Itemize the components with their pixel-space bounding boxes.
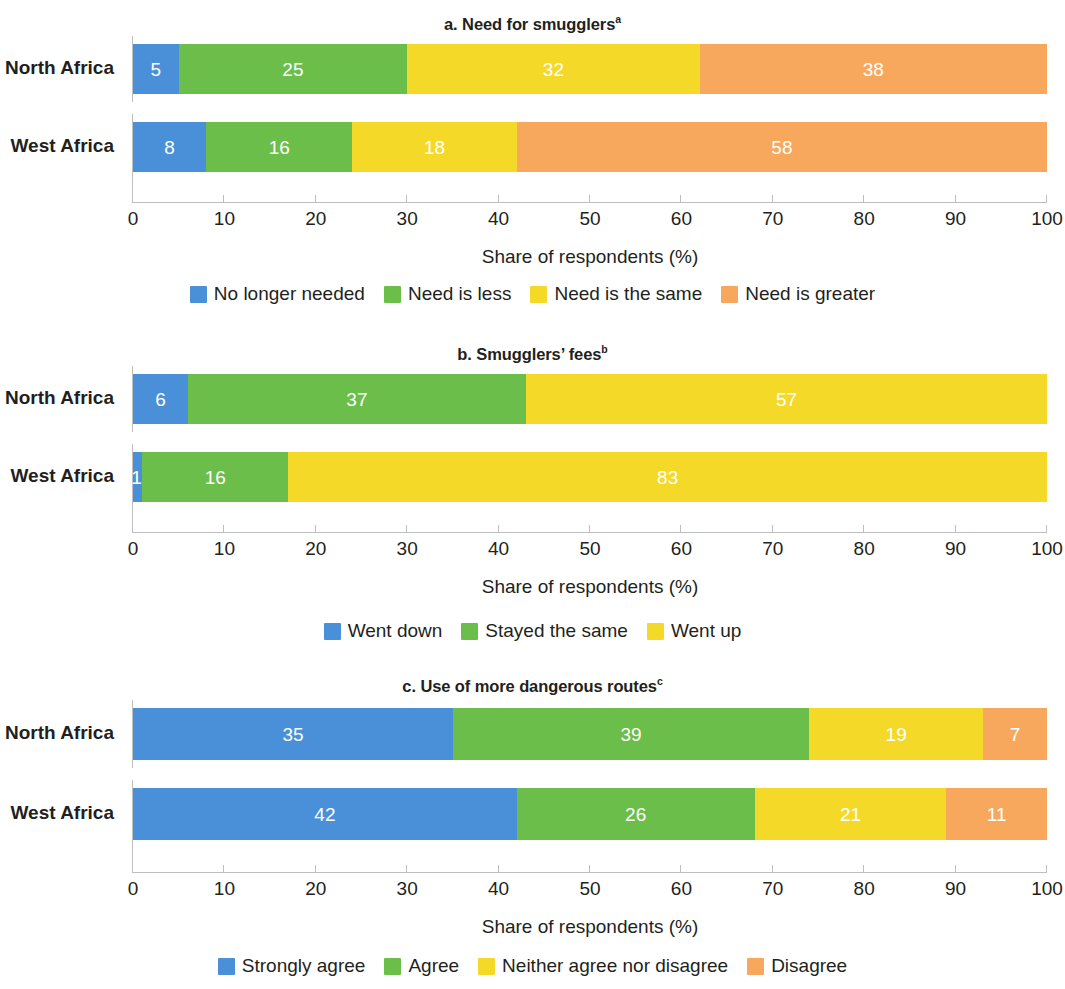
x-axis-baseline xyxy=(132,202,1047,203)
bar-row-c-1: 42262111 xyxy=(133,788,1047,840)
legend-swatch-icon xyxy=(721,286,738,303)
bar-segment-went-up: 83 xyxy=(288,452,1047,502)
x-axis-tick-label-10: 10 xyxy=(214,538,235,560)
x-axis-tick-40 xyxy=(498,865,499,872)
legend-item-need-is-the-same: Need is the same xyxy=(530,283,702,305)
bar-segment-no-longer-needed: 5 xyxy=(133,44,179,94)
panel-title-superscript: b xyxy=(601,343,607,355)
x-axis-tick-100 xyxy=(1046,865,1047,872)
x-axis-tick-label-30: 30 xyxy=(397,208,418,230)
bar-segment-value: 57 xyxy=(776,390,797,409)
legend-label: Need is less xyxy=(408,283,512,305)
x-axis-tick-50 xyxy=(589,865,590,872)
x-axis-tick-label-10: 10 xyxy=(214,878,235,900)
bar-segment-value: 83 xyxy=(657,468,678,487)
x-axis-tick-label-60: 60 xyxy=(671,878,692,900)
category-label-west-africa: West Africa xyxy=(0,802,125,824)
bar-segment-need-is-the-same: 18 xyxy=(352,122,517,172)
x-axis-tick-90 xyxy=(955,525,956,532)
legend-swatch-icon xyxy=(530,286,547,303)
x-axis-tick-100 xyxy=(1046,195,1047,202)
bar-segment-strongly-agree: 35 xyxy=(133,708,453,760)
bar-segment-value: 19 xyxy=(886,725,907,744)
x-axis-tick-labels: 0102030405060708090100 xyxy=(133,208,1047,234)
legend-item-disagree: Disagree xyxy=(747,955,847,977)
legend-label: Went down xyxy=(348,620,443,642)
x-axis-tick-label-100: 100 xyxy=(1031,208,1063,230)
x-axis-tick-label-20: 20 xyxy=(305,878,326,900)
plot-area-c: 3539197North Africa42262111West Africa xyxy=(133,700,1047,902)
x-axis-tick-70 xyxy=(772,525,773,532)
bar-segment-need-is-greater: 38 xyxy=(700,44,1047,94)
x-axis-tick-label-80: 80 xyxy=(854,538,875,560)
x-axis-tick-80 xyxy=(863,525,864,532)
x-axis-tick-label-100: 100 xyxy=(1031,878,1063,900)
x-axis-tick-30 xyxy=(406,195,407,202)
legend-swatch-icon xyxy=(461,623,478,640)
x-axis-tick-label-40: 40 xyxy=(488,878,509,900)
x-axis-tick-label-60: 60 xyxy=(671,208,692,230)
legend-swatch-icon xyxy=(478,958,495,975)
x-axis-tick-0 xyxy=(132,195,133,202)
x-axis-tick-80 xyxy=(863,195,864,202)
bar-segment-value: 35 xyxy=(282,725,303,744)
x-axis-tick-50 xyxy=(589,525,590,532)
chart-panel-c: c. Use of more dangerous routesc3539197N… xyxy=(0,660,1065,989)
bar-segment-value: 25 xyxy=(282,60,303,79)
x-axis-tick-label-20: 20 xyxy=(305,538,326,560)
x-axis-tick-labels: 0102030405060708090100 xyxy=(133,878,1047,904)
x-axis-tick-100 xyxy=(1046,525,1047,532)
x-axis-tick-40 xyxy=(498,525,499,532)
bar-segment-value: 38 xyxy=(863,60,884,79)
panel-title-text: a. Need for smugglers xyxy=(444,15,615,33)
x-axis-tick-80 xyxy=(863,865,864,872)
legend-item-went-up: Went up xyxy=(647,620,741,642)
bar-segment-value: 6 xyxy=(155,390,166,409)
x-axis-tick-60 xyxy=(680,865,681,872)
category-label-north-africa: North Africa xyxy=(0,722,125,744)
plot-area-a: 5253238North Africa8161858West Africa xyxy=(133,36,1047,232)
bar-row-a-0: 5253238 xyxy=(133,44,1047,94)
legend-label: Need is the same xyxy=(554,283,702,305)
legend-b: Went downStayed the sameWent up xyxy=(0,620,1065,642)
x-axis-tick-label-50: 50 xyxy=(579,208,600,230)
panel-title-c: c. Use of more dangerous routesc xyxy=(0,666,1065,692)
legend-label: Agree xyxy=(408,955,459,977)
legend-swatch-icon xyxy=(647,623,664,640)
x-axis-tick-label-80: 80 xyxy=(854,878,875,900)
legend-swatch-icon xyxy=(747,958,764,975)
x-axis-tick-30 xyxy=(406,525,407,532)
x-axis-tick-label-90: 90 xyxy=(945,878,966,900)
x-axis-baseline xyxy=(132,532,1047,533)
bar-segment-value: 8 xyxy=(164,138,175,157)
legend-label: Need is greater xyxy=(745,283,875,305)
bar-segment-went-down: 6 xyxy=(133,374,188,424)
legend-label: Neither agree nor disagree xyxy=(502,955,728,977)
bar-segment-value: 26 xyxy=(625,805,646,824)
plot-area-b: 63757North Africa11683West Africa xyxy=(133,366,1047,562)
legend-item-need-is-greater: Need is greater xyxy=(721,283,875,305)
x-axis-tick-label-40: 40 xyxy=(488,538,509,560)
bar-row-c-0: 3539197 xyxy=(133,708,1047,760)
bar-segment-need-is-less: 16 xyxy=(206,122,352,172)
panel-title-superscript: c xyxy=(657,675,663,687)
bar-segment-neither-agree-nor-disagree: 19 xyxy=(809,708,983,760)
bar-row-b-1: 11683 xyxy=(133,452,1047,502)
panel-title-b: b. Smugglers’ feesb xyxy=(0,334,1065,360)
x-axis-baseline xyxy=(132,872,1047,873)
bar-segment-value: 39 xyxy=(621,725,642,744)
category-label-north-africa: North Africa xyxy=(0,57,125,79)
bar-segment-agree: 26 xyxy=(517,788,755,840)
x-axis-tick-50 xyxy=(589,195,590,202)
bar-segment-value: 32 xyxy=(543,60,564,79)
x-axis-tick-label-50: 50 xyxy=(579,878,600,900)
legend-item-need-is-less: Need is less xyxy=(384,283,512,305)
x-axis-tick-90 xyxy=(955,865,956,872)
bar-segment-strongly-agree: 42 xyxy=(133,788,517,840)
plot-frame: 3539197North Africa42262111West Africa xyxy=(133,700,1047,872)
bar-segment-stayed-the-same: 16 xyxy=(142,452,288,502)
panel-title-text: c. Use of more dangerous routes xyxy=(402,677,657,695)
legend-item-neither-agree-nor-disagree: Neither agree nor disagree xyxy=(478,955,728,977)
plot-frame: 5253238North Africa8161858West Africa xyxy=(133,36,1047,202)
bar-segment-need-is-greater: 58 xyxy=(517,122,1047,172)
